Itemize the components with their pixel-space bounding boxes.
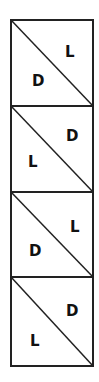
upper-triangle-label: D <box>66 127 78 145</box>
diagonal-line <box>11 20 93 106</box>
lower-triangle-label: L <box>30 332 40 350</box>
diagonal-line <box>11 106 93 192</box>
upper-triangle-label: L <box>70 218 80 236</box>
upper-triangle-label: L <box>65 43 75 61</box>
lower-triangle-label: D <box>32 72 44 90</box>
upper-triangle-label: D <box>66 302 78 320</box>
cell-0: L D <box>11 20 93 106</box>
diagonal-line <box>11 192 93 277</box>
diagonal-line <box>11 277 93 366</box>
lower-triangle-label: L <box>28 153 38 171</box>
cell-3: D L <box>11 277 93 366</box>
triangle-strip-diagram: L D D L L D D L <box>0 0 99 382</box>
cell-1: D L <box>11 106 93 192</box>
cell-2: L D <box>11 192 93 277</box>
lower-triangle-label: D <box>29 242 41 260</box>
